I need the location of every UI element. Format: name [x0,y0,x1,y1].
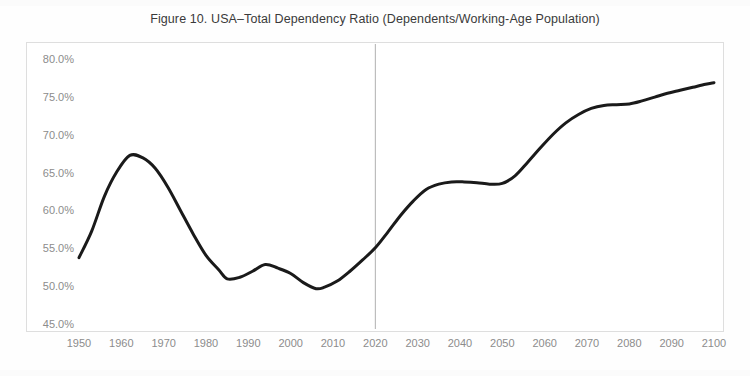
y-tick-label: 70.0% [26,129,74,141]
x-tick-label: 1970 [144,337,184,349]
y-tick-label: 65.0% [26,167,74,179]
chart-plot [26,42,724,332]
y-tick-label: 60.0% [26,204,74,216]
x-tick-label: 2020 [355,337,395,349]
x-tick-label: 1990 [228,337,268,349]
x-tick-label: 1980 [186,337,226,349]
scan-edge-bottom [0,370,750,376]
x-tick-label: 2040 [440,337,480,349]
y-tick-label: 80.0% [26,53,74,65]
y-tick-label: 45.0% [26,318,74,330]
x-tick-label: 2050 [482,337,522,349]
x-tick-label: 2010 [313,337,353,349]
scan-edge-top [0,0,750,6]
x-tick-label: 2090 [652,337,692,349]
series-line-0 [79,83,714,289]
y-tick-label: 75.0% [26,91,74,103]
y-tick-label: 55.0% [26,242,74,254]
figure-root: Figure 10. USA–Total Dependency Ratio (D… [0,0,750,376]
x-tick-label: 2000 [271,337,311,349]
x-tick-label: 2030 [398,337,438,349]
y-tick-label: 50.0% [26,280,74,292]
x-tick-label: 1950 [59,337,99,349]
x-tick-label: 2070 [567,337,607,349]
x-tick-label: 2080 [609,337,649,349]
x-tick-label: 1960 [101,337,141,349]
chart-title: Figure 10. USA–Total Dependency Ratio (D… [0,12,750,26]
x-tick-label: 2100 [694,337,734,349]
x-tick-label: 2060 [525,337,565,349]
